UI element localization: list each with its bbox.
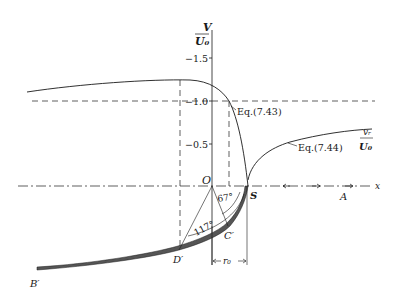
curve-eq-7-44 [248,129,372,180]
vr-label-numerator: vᵣ [363,127,371,137]
eq-7-43-label: Eq.(7.43) [237,106,282,117]
curve-eq-7-43 [27,80,248,186]
arrow-icon [345,184,353,188]
point-a-label: A [339,191,347,202]
diagram-canvas: V U₀ −1.5 −1.0 −0.5 O x S A B′ C′ D′ 67°… [0,0,400,305]
y-tick-label-0.5: −0.5 [185,139,208,150]
origin-label: O [202,174,211,187]
point-d-prime-label: D′ [172,254,184,265]
point-c-prime-label: C′ [224,230,235,241]
eq-7-44-label: Eq.(7.44) [298,142,343,153]
y-axis-label-numerator: V [203,21,213,34]
point-b-prime-label: B′ [29,278,40,289]
vr-label-denominator: U₀ [359,141,373,152]
leader-eq-7-44 [288,143,297,146]
y-axis-label-denominator: U₀ [195,35,210,48]
point-s-label: S [250,190,257,201]
angle-label-67: 67° [217,191,234,204]
arrow-icon [312,184,320,188]
y-tick-label-1.0: −1.0 [185,96,208,107]
body-contour [37,186,248,270]
y-tick-label-1.5: −1.5 [185,53,208,64]
x-axis-label: x [375,181,380,191]
arrow-icon [283,184,290,188]
r0-label: r₀ [223,256,231,266]
